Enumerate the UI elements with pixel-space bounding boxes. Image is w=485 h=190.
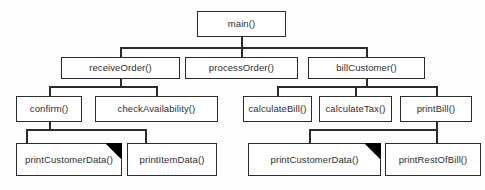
node-print-rest-of-bill-label: printRestOfBill() (396, 155, 471, 165)
connector-main-to-bill-customer (366, 47, 368, 57)
connector-bus-receive-order (49, 86, 157, 88)
node-calculate-bill-label: calculateBill() (246, 104, 310, 114)
node-print-item-data-label: printItemData() (137, 155, 208, 165)
connector-confirm-to-print-customer-data (26, 129, 28, 143)
node-main-label: main() (225, 19, 259, 29)
node-confirm-label: confirm() (27, 104, 71, 114)
connector-bill-customer-to-calculate-bill (277, 86, 279, 96)
node-print-customer-data-left[interactable]: printCustomerData() (16, 143, 122, 176)
node-confirm[interactable]: confirm() (16, 96, 82, 122)
node-receive-order[interactable]: receiveOrder() (61, 57, 180, 79)
connector-bus-main (120, 47, 367, 49)
node-check-availability[interactable]: checkAvailability() (95, 96, 218, 122)
node-check-availability-label: checkAvailability() (115, 104, 199, 114)
node-print-item-data[interactable]: printItemData() (127, 143, 217, 176)
connector-bus-print-bill (309, 129, 437, 131)
node-receive-order-label: receiveOrder() (86, 63, 155, 73)
node-calculate-tax-label: calculateTax() (322, 104, 388, 114)
node-print-bill[interactable]: printBill() (400, 96, 472, 122)
structure-chart-diagram: main() receiveOrder() processOrder() bil… (0, 0, 485, 190)
connector-print-bill-to-print-customer-data (309, 129, 311, 143)
connector-bus-confirm (26, 129, 146, 131)
connector-main-to-receive-order (120, 47, 122, 57)
node-calculate-bill[interactable]: calculateBill() (243, 96, 312, 122)
connector-print-bill-to-print-rest-of-bill (436, 129, 438, 143)
connector-main-to-process-order (241, 47, 243, 57)
connector-confirm-to-print-item-data (145, 129, 147, 143)
node-process-order-label: processOrder() (206, 63, 277, 73)
node-print-bill-label: printBill() (414, 104, 459, 114)
node-bill-customer-label: billCustomer() (333, 63, 400, 73)
node-print-customer-data-left-label: printCustomerData() (22, 155, 116, 165)
node-print-customer-data-right[interactable]: printCustomerData() (248, 143, 381, 176)
node-print-customer-data-right-label: printCustomerData() (268, 155, 362, 165)
connector-bill-customer-to-print-bill (436, 86, 438, 96)
node-main[interactable]: main() (197, 11, 286, 37)
node-print-rest-of-bill[interactable]: printRestOfBill() (385, 143, 481, 176)
connector-receive-order-to-confirm (49, 86, 51, 96)
node-bill-customer[interactable]: billCustomer() (308, 57, 425, 79)
connector-bus-bill-customer (277, 86, 437, 88)
node-calculate-tax[interactable]: calculateTax() (319, 96, 392, 122)
node-process-order[interactable]: processOrder() (185, 57, 298, 79)
connector-receive-order-to-check-availability (156, 86, 158, 96)
connector-bill-customer-to-calculate-tax (355, 86, 357, 96)
